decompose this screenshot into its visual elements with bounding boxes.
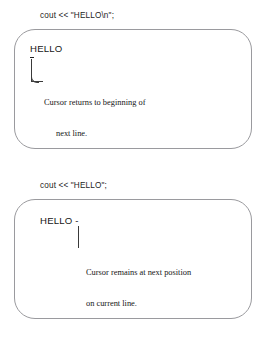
annotation-no-newline-line2: on current line. [86,299,191,309]
annotation-no-newline-line1: Cursor remains at next position [86,268,191,278]
leader-line-vertical-no-newline [78,226,79,248]
leader-line-horizontal [31,81,43,82]
console-output-no-newline: HELLO - [40,215,79,226]
annotation-no-newline: Cursor remains at next position on curre… [86,248,191,319]
code-caption-newline: cout << "HELLO\n"; [40,11,114,20]
console-output-newline: HELLO [30,43,62,54]
annotation-newline-line2: next line. [44,129,145,139]
annotation-newline-line1: Cursor returns to beginning of [44,98,145,108]
code-caption-no-newline: cout << "HELLO"; [40,181,107,190]
annotation-newline: Cursor returns to beginning of next line… [44,78,145,160]
